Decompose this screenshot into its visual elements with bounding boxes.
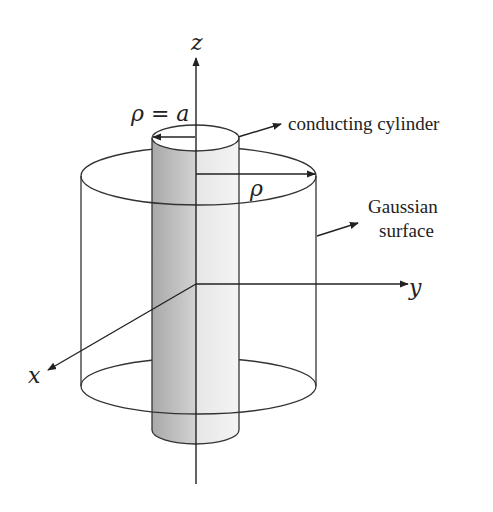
y-axis-label: y [408,275,422,300]
inner-radius-label: ρ = a [130,101,189,126]
conducting-cylinder-label: conducting cylinder [288,113,440,134]
gaussian-surface-label-line1: Gaussian [368,196,438,217]
gaussian-surface-diagram: z y x ρ = a ρ conducting cylinder Gaussi… [0,0,493,512]
conducting-cylinder-pointer [238,124,281,137]
x-axis-label: x [28,363,41,388]
gaussian-radius-label: ρ [249,176,263,201]
cylinder-left-half [152,138,196,444]
gaussian-surface-pointer [317,223,358,236]
z-axis-label: z [190,30,203,55]
gaussian-surface-label-line2: surface [379,220,434,241]
callouts: conducting cylinder Gaussian surface [238,113,440,241]
cylinder-right-half [196,138,239,444]
